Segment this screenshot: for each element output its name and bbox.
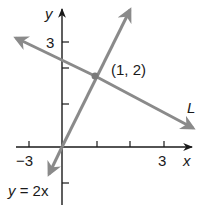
line-y-equals-2x (49, 147, 62, 174)
equation-rest: = 2x (16, 182, 49, 199)
intersection-point (92, 73, 99, 80)
point-label: (1, 2) (111, 61, 146, 78)
x-axis-label: x (182, 152, 191, 169)
graph-figure: y 3 (1, 2) L −3 3 x y = 2x (0, 0, 198, 210)
line-L-left (16, 38, 95, 76)
line-y-equals-2x-label: y = 2x (7, 182, 49, 199)
x-tick-label-3: 3 (158, 152, 166, 169)
y-axis-label: y (44, 5, 54, 22)
line-L-right (95, 76, 193, 128)
line-L-label: L (187, 99, 195, 116)
y-tick-label-3: 3 (46, 34, 54, 51)
x-ticks (29, 141, 164, 147)
x-tick-label-neg3: −3 (16, 152, 33, 169)
